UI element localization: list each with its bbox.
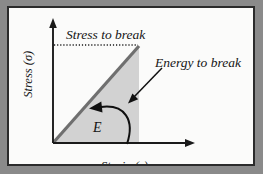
x-axis-arrowhead [185,139,195,147]
label-modulus: E [93,121,102,135]
label-stress-to-break: Stress to break [66,28,145,42]
y-axis-label: Stress (σ) [22,39,35,109]
figure-frame: Stress to break Energy to break E Stress… [7,6,255,166]
x-axis-label: Strain (ε) [101,160,148,166]
y-axis-arrowhead [49,18,57,28]
stress-strain-figure: Stress to break Energy to break E Stress… [0,0,263,174]
label-energy-to-break: Energy to break [155,56,241,70]
